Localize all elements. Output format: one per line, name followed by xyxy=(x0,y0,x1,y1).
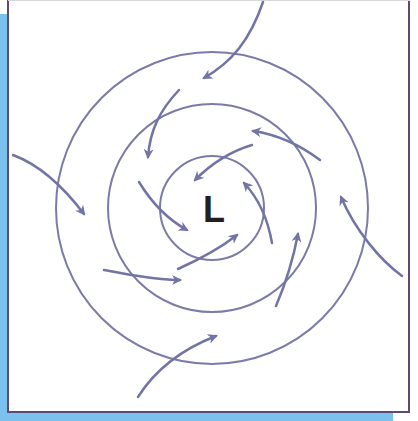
wind-arrow-left xyxy=(13,155,84,214)
wind-arrow-top xyxy=(204,2,263,78)
cyclone-diagram: L xyxy=(0,0,418,421)
wind-arrow-inner-bottom xyxy=(178,235,237,269)
wind-arrow-bottom xyxy=(138,336,216,397)
wind-arrow-right xyxy=(341,197,402,276)
low-pressure-label: L xyxy=(203,189,225,230)
wind-arrow-lower-left xyxy=(104,270,180,280)
wind-arrow-inner-top xyxy=(195,145,252,180)
